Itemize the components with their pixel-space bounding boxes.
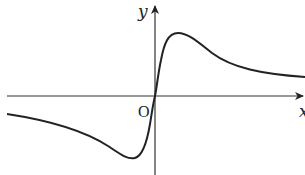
function-graph: y O x [0,0,305,175]
x-axis-label: x [299,101,305,121]
y-axis-label: y [137,1,148,21]
origin-label: O [138,103,150,120]
